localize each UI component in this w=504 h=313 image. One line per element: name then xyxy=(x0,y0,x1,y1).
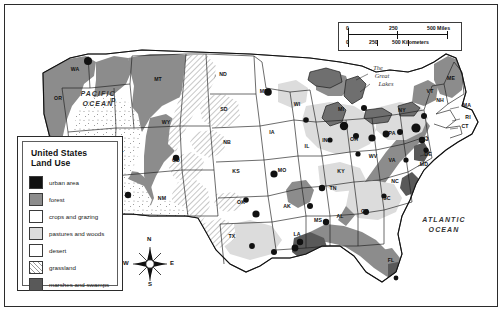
legend-swatch-urban-area xyxy=(29,176,43,189)
state-label-md: MD xyxy=(420,161,428,167)
scale-label-km-0: 0 xyxy=(346,39,349,45)
legend-swatch-grassland xyxy=(29,261,43,274)
legend-item-forest[interactable]: forest xyxy=(29,192,112,208)
compass-rose: N E S W xyxy=(123,237,177,291)
legend-label-pastures-and-woods: pastures and woods xyxy=(49,230,104,237)
compass-label-east: E xyxy=(170,260,174,266)
legend-title-line1: United States xyxy=(31,148,112,158)
state-label-sc: SC xyxy=(383,195,391,201)
state-label-mo: MO xyxy=(278,167,287,173)
compass-label-north: N xyxy=(147,236,151,242)
state-label-ok: OK xyxy=(237,199,245,205)
state-label-ma: MA xyxy=(463,102,471,108)
legend-item-grassland[interactable]: grassland xyxy=(29,260,112,276)
state-label-in: IN xyxy=(322,137,328,143)
state-label-mt: MT xyxy=(154,76,162,82)
state-label-wy: WY xyxy=(162,119,171,125)
state-label-ri: RI xyxy=(465,114,471,120)
pacific-ocean-line2: OCEAN xyxy=(83,100,114,107)
legend-item-marshes-and-swamps[interactable]: marshes and swamps xyxy=(29,277,112,293)
state-label-mn: MN xyxy=(260,88,268,94)
state-label-mi: MI xyxy=(338,106,344,112)
legend-label-urban-area: urban area xyxy=(49,179,79,186)
state-label-nd: ND xyxy=(219,71,227,77)
scale-tick-mid xyxy=(397,31,398,39)
atlantic-ocean-line1: ATLANTIC xyxy=(421,216,465,223)
scale-label-km-250: 250 xyxy=(369,39,378,45)
state-label-ks: KS xyxy=(232,168,240,174)
state-label-ak: AK xyxy=(283,203,291,209)
legend-title: United States Land Use xyxy=(31,148,112,169)
state-label-wa: WA xyxy=(71,66,80,72)
state-label-ny: NY xyxy=(398,107,406,113)
state-label-nh: NH xyxy=(436,97,444,103)
legend-item-pastures-and-woods[interactable]: pastures and woods xyxy=(29,226,112,242)
legend-label-grassland: grassland xyxy=(49,264,76,271)
ocean-label-atlantic: ATLANTIC OCEAN xyxy=(421,216,465,233)
compass-label-west: W xyxy=(123,260,129,266)
state-label-la: LA xyxy=(293,231,300,237)
legend-swatch-marshes-and-swamps xyxy=(29,278,43,291)
map-legend: United States Land Use urban area forest… xyxy=(17,136,123,291)
state-label-al: AL xyxy=(336,213,344,219)
state-label-wi: WI xyxy=(294,101,301,107)
state-label-ia: IA xyxy=(269,129,275,135)
state-label-fl: FL xyxy=(388,257,395,263)
map-page: WAORCANVIDMTWYUTAZCONMNDSDNBKSOKTXMNIAMO… xyxy=(0,0,504,313)
state-label-nc: NC xyxy=(391,178,399,184)
state-label-ky: KY xyxy=(337,168,345,174)
scale-tick-end xyxy=(447,31,448,39)
great-lakes-line1: The xyxy=(373,64,383,71)
state-label-tn: TN xyxy=(329,185,336,191)
state-label-me: ME xyxy=(447,75,455,81)
map-frame: WAORCANVIDMTWYUTAZCONMNDSDNBKSOKTXMNIAMO… xyxy=(4,4,498,307)
state-label-or: OR xyxy=(54,95,62,101)
state-label-co: CO xyxy=(172,157,180,163)
legend-swatch-pastures-and-woods xyxy=(29,227,43,240)
legend-inner-border: United States Land Use urban area forest… xyxy=(22,141,118,286)
scale-bar: 0 250 500 Miles 0 250 500 Kilometers xyxy=(338,22,462,51)
state-label-de: DE xyxy=(424,151,432,157)
state-label-pa: PA xyxy=(388,130,395,136)
state-label-va: VA xyxy=(388,157,395,163)
scale-label-miles-250: 250 xyxy=(389,25,398,31)
legend-label-desert: desert xyxy=(49,247,66,254)
compass-label-south: S xyxy=(148,281,152,287)
state-label-vt: VT xyxy=(427,88,435,94)
scale-label-km-500: 500 Kilometers xyxy=(392,39,429,45)
state-label-nm: NM xyxy=(158,195,166,201)
state-label-sd: SD xyxy=(220,106,228,112)
legend-label-crops-and-grazing: crops and grazing xyxy=(49,213,98,220)
state-label-ct: CT xyxy=(461,123,469,129)
legend-item-desert[interactable]: desert xyxy=(29,243,112,259)
legend-label-forest: forest xyxy=(49,196,64,203)
scale-label-miles-0: 0 xyxy=(346,25,349,31)
legend-swatch-crops-and-grazing xyxy=(29,210,43,223)
legend-item-crops-and-grazing[interactable]: crops and grazing xyxy=(29,209,112,225)
legend-swatch-forest xyxy=(29,193,43,206)
state-label-il: IL xyxy=(305,143,311,149)
great-lakes-line2: Great xyxy=(375,72,390,79)
atlantic-ocean-line2: OCEAN xyxy=(429,226,460,233)
great-lakes-line3: Lakes xyxy=(378,80,394,87)
pacific-ocean-line1: PACIFIC xyxy=(80,90,115,97)
state-label-nb: NB xyxy=(223,139,231,145)
state-label-ms: MS xyxy=(314,217,322,223)
legend-item-urban-area[interactable]: urban area xyxy=(29,175,112,191)
legend-swatch-desert xyxy=(29,244,43,257)
state-label-tx: TX xyxy=(229,233,236,239)
state-label-oh: OH xyxy=(350,136,358,142)
legend-label-marshes-and-swamps: marshes and swamps xyxy=(49,281,109,288)
state-label-wv: WV xyxy=(369,153,378,159)
state-label-ga: GA xyxy=(361,208,369,214)
scale-label-miles-500: 500 Miles xyxy=(427,25,450,31)
legend-title-line2: Land Use xyxy=(31,158,112,168)
